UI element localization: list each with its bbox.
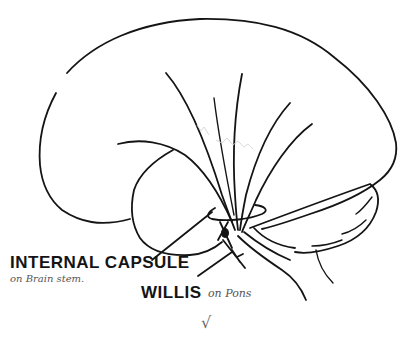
internal-capsule-note: on Brain stem.	[10, 273, 84, 284]
fiber-2	[234, 74, 242, 230]
sylvian-fissure	[118, 141, 232, 222]
willis-note: on Pons	[208, 287, 252, 300]
check-mark: √	[201, 313, 211, 332]
cerebrum-frontal-curve	[40, 93, 130, 223]
cerebellum-fold-1	[356, 197, 372, 214]
brain-diagram: INTERNAL CAPSULE on Brain stem. WILLIS o…	[0, 0, 412, 354]
brain-drawing	[0, 0, 412, 354]
cerebellum-lower-lobe	[316, 250, 333, 283]
fiber-4	[242, 124, 312, 232]
fiber-5	[214, 98, 234, 215]
cerebellum-fold-3	[312, 240, 342, 246]
cerebrum-outline	[67, 19, 396, 229]
willis-label: WILLIS	[141, 283, 202, 303]
internal-capsule-label: INTERNAL CAPSULE	[10, 253, 190, 273]
willis-pointer	[198, 252, 232, 276]
